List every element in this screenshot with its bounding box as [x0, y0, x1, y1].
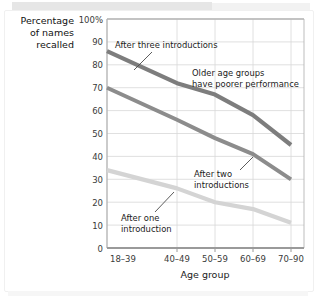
x-tick-label: 50–59: [202, 254, 228, 264]
line-chart: 100% 90 80 70 60 50 40 30 20 10 0 Percen…: [0, 0, 318, 302]
y-axis-title-line1: Percentage: [21, 15, 75, 26]
annotation-older-groups-line1: Older age groups: [192, 68, 264, 78]
x-tick-label: 70–90: [278, 254, 304, 264]
annotation-after-two-line1: After two: [194, 169, 232, 179]
y-tick-label: 30: [92, 175, 103, 185]
y-tick-label: 100%: [79, 15, 103, 25]
y-tick-label: 0: [98, 244, 103, 254]
y-tick-label: 80: [92, 60, 103, 70]
y-tick-label: 60: [92, 106, 103, 116]
y-tick-label: 50: [92, 129, 103, 139]
y-axis-title-line2: of names: [30, 27, 74, 38]
y-tick-label: 90: [92, 37, 103, 47]
annotation-after-two-line2: introductions: [194, 180, 249, 190]
x-axis-tick-labels: 18–39 40–49 50–59 60–69 70–90: [110, 254, 304, 264]
y-tick-label: 40: [92, 152, 103, 162]
annotation-after-three-label: After three introductions: [115, 40, 218, 50]
annotation-older-groups-line2: have poorer performance: [192, 79, 299, 89]
y-axis-title: Percentage of names recalled: [21, 15, 75, 50]
x-tick-label: 18–39: [110, 254, 136, 264]
annotation-after-one-line1: After one: [121, 213, 159, 223]
x-tick-label: 40–49: [164, 254, 190, 264]
figure-container: 100% 90 80 70 60 50 40 30 20 10 0 Percen…: [0, 0, 318, 302]
y-tick-label: 70: [92, 83, 103, 93]
y-tick-label: 10: [92, 221, 103, 231]
x-tick-label: 60–69: [240, 254, 266, 264]
y-axis-title-line3: recalled: [36, 39, 74, 50]
annotation-after-one-line2: introduction: [121, 224, 172, 234]
x-axis-title: Age group: [181, 269, 230, 280]
y-axis-tick-labels: 100% 90 80 70 60 50 40 30 20 10 0: [79, 15, 103, 254]
y-tick-label: 20: [92, 198, 103, 208]
